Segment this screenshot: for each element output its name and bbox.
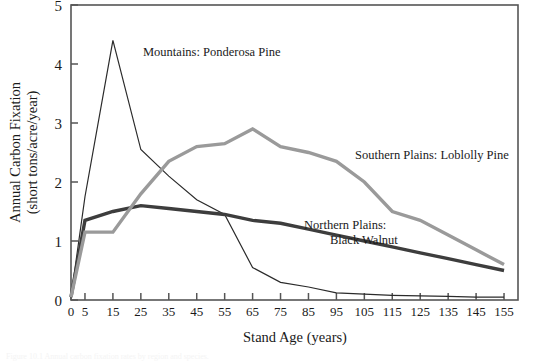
y-axis-title-line: Annual Carbon Fixation [7, 81, 23, 223]
y-tick-label: 1 [55, 234, 63, 250]
x-tick-label: 25 [134, 304, 147, 319]
x-axis-title: Stand Age (years) [243, 329, 347, 346]
series-annotation-label: Southern Plains: Loblolly Pine [355, 148, 509, 162]
y-tick-label: 2 [55, 175, 63, 191]
x-tick-label: 85 [302, 304, 315, 319]
chart-figure: 012345 051525354555657585951051151251351… [0, 0, 537, 361]
line-chart: 012345 051525354555657585951051151251351… [0, 0, 537, 361]
x-tick-label: 0 [68, 304, 75, 319]
y-tick-label: 5 [55, 0, 63, 14]
x-tick-label: 45 [190, 304, 203, 319]
y-axis-title: Annual Carbon Fixation(short tons/acre/y… [7, 81, 41, 223]
series-annotation-label: Black Walnut [330, 233, 398, 247]
x-tick-label: 65 [246, 304, 259, 319]
y-axis-title-line: (short tons/acre/year) [24, 91, 41, 215]
x-tick-label: 115 [383, 304, 402, 319]
x-tick-label: 105 [355, 304, 375, 319]
series-annotation-label: Northern Plains: [304, 218, 386, 232]
figure-caption: Figure 10.1 Annual carbon fixation rates… [6, 353, 209, 361]
x-tick-label: 95 [330, 304, 343, 319]
x-tick-label: 35 [162, 304, 175, 319]
x-tick-label: 145 [466, 304, 486, 319]
x-tick-label: 155 [494, 304, 514, 319]
x-tick-label: 5 [82, 304, 89, 319]
y-tick-label: 0 [55, 293, 63, 309]
x-tick-label: 55 [218, 304, 231, 319]
series-annotation-label: Mountains: Ponderosa Pine [143, 45, 281, 59]
x-tick-label: 15 [106, 304, 119, 319]
x-tick-label: 135 [438, 304, 458, 319]
y-tick-label: 4 [55, 57, 63, 73]
y-tick-label: 3 [55, 116, 63, 132]
x-tick-label: 75 [274, 304, 287, 319]
x-tick-label: 125 [410, 304, 430, 319]
